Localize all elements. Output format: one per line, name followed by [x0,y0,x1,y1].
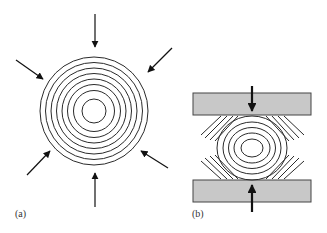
compression-arrows [16,14,172,207]
arrow-upper-right-icon [148,48,172,72]
arrow-lower-right-icon [141,151,168,168]
panel-label-b: (b) [192,208,204,219]
panel-b [193,86,311,212]
arrow-upper-left-icon [16,60,43,79]
arrow-lower-left-icon [27,151,50,175]
panel-label-a: (a) [15,208,26,219]
panel-a [16,14,172,207]
diagram-canvas [0,0,327,233]
diagonal-lines [201,116,304,179]
concentric-circles [40,57,148,165]
concentric-ellipses [217,116,287,180]
